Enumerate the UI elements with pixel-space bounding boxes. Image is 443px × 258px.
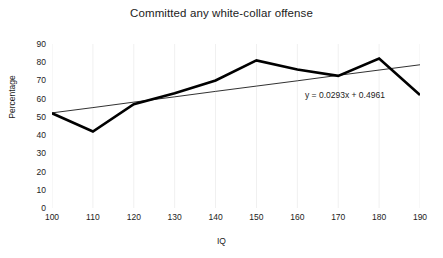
x-axis-tick-label: 150 bbox=[238, 213, 274, 222]
trendline-equation-label: y = 0.0293x + 0.4961 bbox=[305, 90, 385, 100]
x-axis-tick-label: 110 bbox=[75, 213, 111, 222]
gridlines bbox=[52, 44, 420, 208]
chart-container: Committed any white-collar offense Perce… bbox=[0, 0, 443, 258]
plot-svg bbox=[52, 44, 420, 208]
x-axis-tick-label: 160 bbox=[279, 213, 315, 222]
trendline-path bbox=[52, 65, 420, 113]
x-axis-tick-label: 190 bbox=[402, 213, 438, 222]
x-axis-tick-label: 140 bbox=[198, 213, 234, 222]
x-axis-tick-label: 120 bbox=[116, 213, 152, 222]
plot-area bbox=[52, 44, 420, 208]
x-axis-tick-label: 170 bbox=[320, 213, 356, 222]
x-axis-tick-label: 100 bbox=[34, 213, 70, 222]
x-axis-tick-label: 180 bbox=[361, 213, 397, 222]
x-axis-tick-label: 130 bbox=[157, 213, 193, 222]
